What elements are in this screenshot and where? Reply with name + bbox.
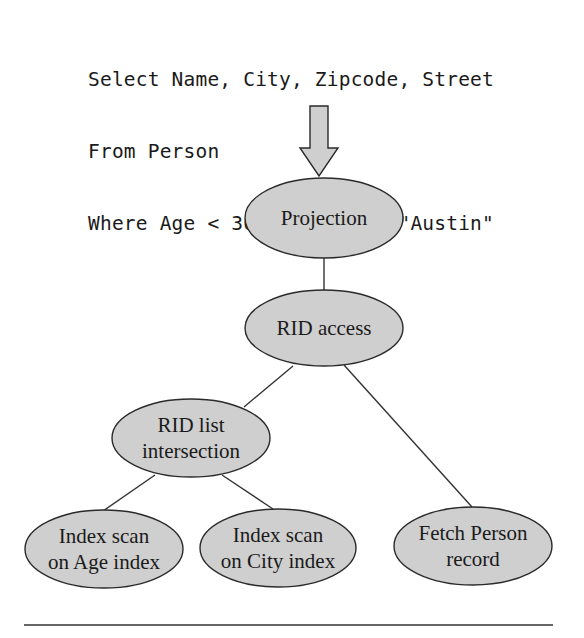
node-rid-access-label: RID access bbox=[276, 316, 371, 340]
down-arrow-icon bbox=[300, 106, 338, 176]
query-plan-tree: Projection RID access RID list intersect… bbox=[0, 0, 584, 638]
node-projection: Projection bbox=[245, 178, 403, 258]
node-rid-access: RID access bbox=[245, 290, 403, 366]
node-rid-list-intersection: RID list intersection bbox=[112, 399, 270, 477]
node-index-scan-age: Index scan on Age index bbox=[25, 510, 183, 588]
node-projection-label: Projection bbox=[281, 206, 368, 230]
node-index-scan-city-label-2: on City index bbox=[221, 549, 336, 573]
node-fetch-person-label-1: Fetch Person bbox=[418, 521, 528, 545]
node-fetch-person: Fetch Person record bbox=[394, 507, 552, 585]
edge-rid-access-fetch bbox=[344, 365, 472, 507]
node-index-scan-age-label-1: Index scan bbox=[59, 524, 150, 548]
node-index-scan-city: Index scan on City index bbox=[200, 509, 356, 587]
node-index-scan-age-label-2: on Age index bbox=[48, 550, 160, 574]
edge-intersection-age bbox=[103, 475, 155, 511]
node-rid-list-intersection-label-1: RID list bbox=[157, 413, 224, 437]
node-rid-list-intersection-label-2: intersection bbox=[142, 439, 240, 463]
edge-intersection-city bbox=[222, 475, 273, 509]
node-index-scan-city-label-1: Index scan bbox=[233, 523, 324, 547]
node-fetch-person-label-2: record bbox=[446, 547, 500, 571]
edge-rid-access-intersection bbox=[244, 366, 293, 407]
